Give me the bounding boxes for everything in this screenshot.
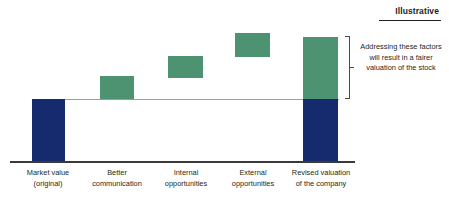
waterfall-chart: Illustrative Market value (original) Bet…: [0, 0, 449, 203]
bar-market-value-original: [32, 99, 65, 162]
bar-internal-opportunities: [168, 56, 203, 78]
x-axis-label-revised-valuation: Revised valuation of the company: [265, 168, 377, 189]
annotation-bracket: [345, 36, 354, 99]
x-axis-line: [10, 161, 355, 163]
illustrative-underline: [379, 20, 441, 21]
annotation-text: Addressing these factors will result in …: [357, 42, 445, 74]
bar-external-opportunities: [235, 33, 270, 57]
illustrative-label: Illustrative: [395, 6, 439, 16]
bracket-bottom-cap: [345, 98, 350, 99]
bar-revised-valuation-base: [303, 99, 338, 162]
bracket-pointer: [350, 67, 354, 68]
bar-better-communication: [100, 76, 134, 99]
bar-revised-valuation-increment: [303, 37, 338, 99]
plot-area: Market value (original) Better communica…: [0, 0, 360, 170]
